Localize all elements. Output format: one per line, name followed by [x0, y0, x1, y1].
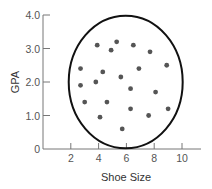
data-point	[98, 115, 103, 120]
data-point	[164, 63, 169, 68]
x-tick-label: 4	[96, 152, 102, 164]
data-point	[146, 113, 151, 118]
data-point	[114, 39, 119, 44]
x-tick-label: 8	[151, 152, 157, 164]
enclosing-ellipse	[69, 16, 183, 149]
data-points	[78, 39, 170, 131]
x-tick-label: 2	[68, 152, 74, 164]
data-point	[166, 106, 171, 111]
data-point	[153, 90, 158, 95]
y-axis-title: GPA	[9, 70, 21, 93]
data-point	[78, 83, 83, 88]
data-point	[118, 75, 123, 80]
y-tick-label: 1.0	[25, 110, 40, 122]
data-point	[131, 43, 136, 48]
data-point	[95, 43, 100, 48]
data-point	[109, 48, 114, 53]
data-point	[78, 66, 83, 71]
data-point	[93, 80, 98, 85]
y-tick-label: 4.0	[25, 9, 40, 21]
scatter-chart: 01.02.03.04.0 246810 Shoe Size GPA	[0, 0, 212, 189]
data-point	[148, 49, 153, 54]
x-tick-label: 10	[176, 152, 188, 164]
x-ticks: 246810	[68, 143, 188, 164]
y-tick-label: 3.0	[25, 43, 40, 55]
x-tick-label: 6	[123, 152, 129, 164]
data-point	[137, 66, 142, 71]
x-axis-title: Shoe Size	[101, 171, 151, 183]
y-tick-label: 0	[34, 143, 40, 155]
data-point	[120, 126, 125, 131]
data-point	[82, 100, 87, 105]
data-point	[100, 70, 105, 75]
y-tick-label: 2.0	[25, 76, 40, 88]
data-point	[128, 86, 133, 91]
data-point	[105, 100, 110, 105]
data-point	[128, 106, 133, 111]
y-ticks: 01.02.03.04.0	[25, 9, 50, 155]
